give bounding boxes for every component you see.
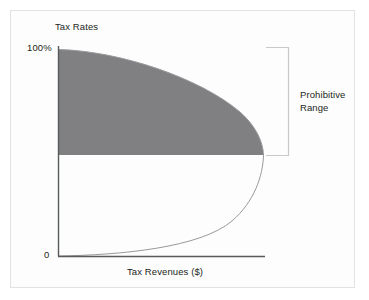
prohibitive-range-shaded-area [59,50,264,156]
y-axis-tick-label-100: 100% [27,42,52,54]
y-axis-title: Tax Rates [55,21,98,33]
chart-figure: Tax Rates 100% 0 Tax Revenues ($) Prohib… [0,0,369,300]
laffer-curve-plot [0,0,369,300]
prohibitive-range-label-line1: Prohibitive [300,89,345,100]
laffer-curve-lower-branch [59,155,264,256]
prohibitive-range-bracket [266,48,289,156]
x-axis-title: Tax Revenues ($) [127,266,203,278]
y-axis-tick-label-0: 0 [44,249,49,261]
prohibitive-range-label-line2: Range [300,102,329,113]
prohibitive-range-label: ProhibitiveRange [300,88,362,114]
